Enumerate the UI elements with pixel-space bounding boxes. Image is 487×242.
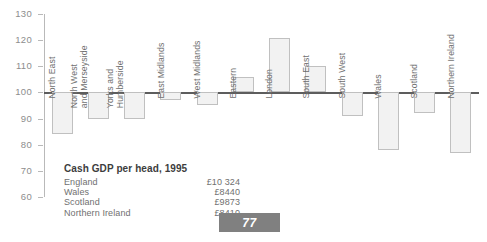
y-tick-label: 130 bbox=[0, 9, 32, 19]
inset-row-label: Scotland bbox=[64, 197, 100, 207]
inset-row: Northern Ireland£8410 bbox=[64, 208, 240, 218]
y-tick-mark bbox=[38, 197, 43, 198]
inset-row: Scotland£9873 bbox=[64, 197, 240, 207]
y-tick-mark bbox=[38, 92, 43, 93]
page-number-badge: 77 bbox=[219, 213, 280, 232]
inset-row: England£10 324 bbox=[64, 177, 240, 187]
category-label: North West and Merseyside bbox=[70, 46, 89, 109]
category-label: London bbox=[266, 69, 276, 99]
category-label: North East bbox=[48, 57, 58, 99]
bar bbox=[378, 92, 399, 150]
category-label: Northern Ireland bbox=[447, 35, 457, 100]
category-label: South West bbox=[338, 53, 348, 99]
inset-row-value: £8440 bbox=[214, 187, 240, 197]
inset-row-value: £9873 bbox=[214, 197, 240, 207]
y-tick-mark bbox=[38, 119, 43, 120]
y-axis-spine bbox=[44, 14, 45, 197]
y-tick-label: 110 bbox=[0, 61, 32, 71]
y-tick-label: 80 bbox=[0, 140, 32, 150]
y-tick-mark bbox=[38, 171, 43, 172]
y-tick-mark bbox=[38, 14, 43, 15]
chart-figure: 13012011010090807060 North EastNorth Wes… bbox=[0, 0, 487, 242]
y-tick-label: 60 bbox=[0, 192, 32, 202]
category-label: Wales bbox=[374, 75, 384, 99]
bar bbox=[450, 92, 471, 152]
category-label: South East bbox=[302, 55, 312, 99]
inset-rows: England£10 324Wales£8440Scotland£9873Nor… bbox=[64, 177, 240, 218]
inset-title: Cash GDP per head, 1995 bbox=[64, 163, 240, 174]
category-label: East Midlands bbox=[157, 43, 167, 99]
bar bbox=[124, 92, 145, 118]
y-tick-mark bbox=[38, 66, 43, 67]
category-label: Eastern bbox=[229, 68, 239, 99]
category-label: Yorks and Humberside bbox=[106, 61, 125, 109]
inset-row-label: Wales bbox=[64, 187, 89, 197]
page-number-text: 77 bbox=[242, 216, 256, 230]
y-tick-label: 70 bbox=[0, 166, 32, 176]
y-tick-label: 100 bbox=[0, 87, 32, 97]
category-label: Scotland bbox=[411, 64, 421, 99]
y-tick-label: 120 bbox=[0, 35, 32, 45]
inset-row: Wales£8440 bbox=[64, 187, 240, 197]
y-tick-mark bbox=[38, 145, 43, 146]
inset-row-value: £10 324 bbox=[207, 177, 240, 187]
category-label: West Midlands bbox=[193, 41, 203, 99]
y-tick-mark bbox=[38, 40, 43, 41]
y-tick-label: 90 bbox=[0, 114, 32, 124]
inset-row-label: Northern Ireland bbox=[64, 208, 131, 218]
inset-row-label: England bbox=[64, 177, 98, 187]
inset-table: Cash GDP per head, 1995 England£10 324Wa… bbox=[64, 163, 240, 218]
